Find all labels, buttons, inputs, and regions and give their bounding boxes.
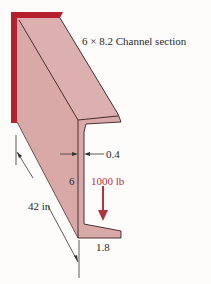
wall-support-top <box>11 12 63 18</box>
length-label: 42 in <box>28 200 51 212</box>
channel-diagram: 42 in 0.4 6 1000 lb 1.8 6 × 8.2 Channel … <box>0 0 211 284</box>
flange-width-label: 1.8 <box>96 241 110 253</box>
section-title-label: 6 × 8.2 Channel section <box>82 35 187 47</box>
load-arrowhead <box>98 210 108 221</box>
length-arrowhead-bottom <box>74 255 78 262</box>
thickness-label: 0.4 <box>106 148 120 160</box>
wall-support-vertical <box>11 12 17 123</box>
length-arrowhead-top <box>17 152 22 158</box>
thickness-arrowhead-right <box>84 152 90 156</box>
load-label: 1000 lb <box>91 175 125 187</box>
depth-label: 6 <box>69 175 75 187</box>
